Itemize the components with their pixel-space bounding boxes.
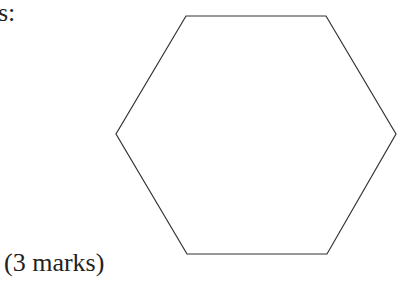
hexagon-shape: [116, 16, 396, 254]
hexagon-figure: [0, 0, 414, 288]
marks-label: (3 marks): [4, 248, 104, 278]
